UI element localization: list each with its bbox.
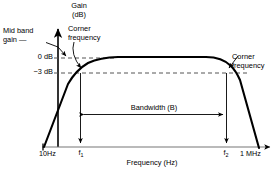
x-tick-label-f2: f2 [215,149,237,158]
y-axis-label-line2: (dB) [72,10,86,19]
x-tick-label-f1-subscript: 1 [81,152,84,158]
x-axis-label: Frequency (Hz) [110,159,194,168]
corner-frequency-right-line2: frequency [232,61,264,70]
y-tick-label-0db: 0 dB [18,53,53,62]
corner-frequency-left-line2: frequency [68,33,100,42]
y-tick-label-minus-3db: −3 dB [14,68,53,77]
x-tick-label-1mhz: 1 MHz [240,150,276,159]
x-tick-label-f2-subscript: 2 [226,152,229,158]
x-tick-label-f1: f1 [70,149,92,158]
corner-frequency-left-label: Corner frequency [68,25,120,42]
y-axis-label: Gain (dB) [62,2,96,19]
frequency-response-figure: Gain (dB) Mid band gain — 0 dB −3 dB Cor… [0,0,279,170]
bode-plot-canvas [0,0,279,170]
corner-frequency-right-label: Corner frequency [232,53,279,70]
mid-band-gain-label: Mid band gain — [3,27,57,44]
x-tick-label-10hz: 10Hz [39,150,69,159]
mid-band-gain-line2: gain — [3,35,26,44]
corner-frequency-left-leader [73,42,81,68]
bandwidth-label: Bandwidth (B) [112,104,196,113]
